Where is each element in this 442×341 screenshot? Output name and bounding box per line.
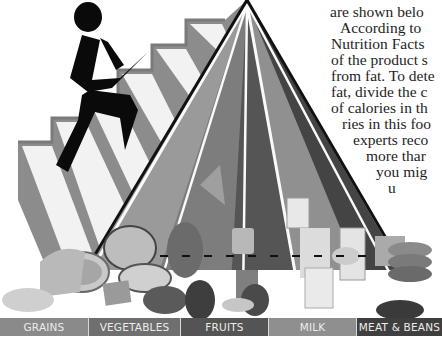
food-group-fruits: FRUITS	[181, 318, 269, 336]
food-group-grains: GRAINS	[0, 318, 89, 336]
food-group-bar: GRAINS VEGETABLES FRUITS MILK MEAT & BEA…	[0, 318, 442, 336]
food-group-meat-beans: MEAT & BEANS	[357, 318, 442, 336]
food-group-vegetables: VEGETABLES	[89, 318, 181, 336]
food-group-milk: MILK	[269, 318, 357, 336]
food-pyramid-illustration	[0, 0, 442, 341]
